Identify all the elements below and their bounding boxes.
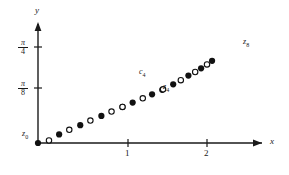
data-point <box>204 62 209 67</box>
data-point <box>130 99 136 105</box>
data-point <box>170 81 176 87</box>
data-point <box>109 109 114 114</box>
data-point <box>120 104 125 109</box>
data-point <box>178 77 183 82</box>
y-tick-label-pi-over-8: π 8 <box>16 80 30 97</box>
y-axis-label: y <box>35 6 39 15</box>
figure-container: y x 1 2 π 8 π 4 z0 c4 z4 z8 <box>0 0 289 175</box>
label-z8: z8 <box>243 38 249 48</box>
data-point <box>149 91 155 97</box>
pi-over-8-numerator: π <box>16 80 30 88</box>
label-z4-sub: 4 <box>166 87 169 93</box>
data-point-z0 <box>35 140 41 146</box>
pi-over-4-numerator: π <box>16 39 30 47</box>
data-point <box>185 72 191 78</box>
data-point <box>46 138 51 143</box>
data-point <box>77 122 83 128</box>
pi-over-4-denominator: 4 <box>16 48 30 56</box>
label-z4: z4 <box>163 83 169 93</box>
x-tick-label-1: 1 <box>125 149 130 158</box>
data-point <box>67 127 72 132</box>
data-point <box>192 69 197 74</box>
x-axis-label: x <box>270 137 274 146</box>
pi-over-8-denominator: 8 <box>16 89 30 97</box>
label-c4-sub: 4 <box>143 72 146 78</box>
data-point <box>209 58 215 64</box>
label-c4: c4 <box>139 68 146 78</box>
data-point <box>98 113 104 119</box>
data-point <box>198 65 204 71</box>
data-point <box>88 118 93 123</box>
label-z8-sub: 8 <box>246 42 249 48</box>
x-tick-label-2: 2 <box>204 149 209 158</box>
data-point <box>56 131 62 137</box>
data-point <box>140 96 145 101</box>
data-point-group <box>46 58 215 143</box>
y-tick-label-pi-over-4: π 4 <box>16 39 30 56</box>
label-z0: z0 <box>22 130 28 140</box>
scatter-plot-canvas <box>0 0 289 175</box>
label-z0-sub: 0 <box>25 134 28 140</box>
